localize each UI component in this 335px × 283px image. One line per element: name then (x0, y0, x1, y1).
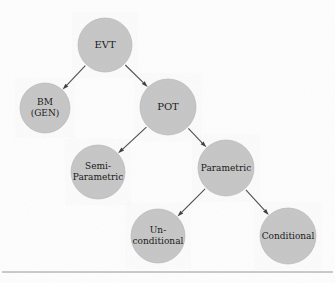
node-label: (GEN) (31, 108, 60, 118)
node-un-conditional[interactable]: Un-conditional (131, 209, 185, 263)
node-label: BM (37, 97, 53, 107)
node-parametric[interactable]: Parametric (198, 140, 254, 196)
node-label: Parametric (73, 172, 123, 182)
tree-diagram: EVTBM(GEN)POTSemi-ParametricParametricUn… (0, 0, 335, 283)
figure-canvas: EVTBM(GEN)POTSemi-ParametricParametricUn… (0, 0, 335, 283)
node-label: conditional (133, 236, 184, 246)
node-semi-parametric[interactable]: Semi-Parametric (71, 145, 125, 199)
node-label: Parametric (201, 163, 251, 173)
node-evt[interactable]: EVT (78, 18, 132, 72)
node-label: Semi- (85, 161, 111, 171)
node-label: Un- (150, 225, 166, 235)
node-label: POT (157, 101, 179, 112)
node-label: EVT (94, 39, 116, 50)
node-bm-gen[interactable]: BM(GEN) (20, 83, 70, 133)
node-conditional[interactable]: Conditional (260, 208, 316, 264)
node-label: Conditional (262, 231, 315, 241)
node-pot[interactable]: POT (140, 79, 196, 135)
